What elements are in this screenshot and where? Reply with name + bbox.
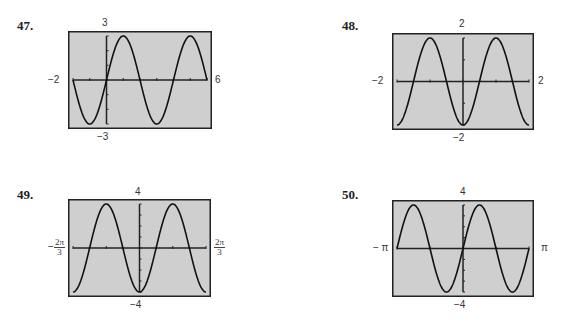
graph-49	[68, 199, 211, 297]
problem-number: 50.	[342, 187, 358, 203]
x-min-sign: −	[48, 241, 54, 252]
problem-number: 49.	[17, 187, 33, 203]
graph-50	[392, 200, 534, 297]
x-min-label: −2	[48, 74, 59, 85]
y-max-label: 4	[460, 186, 466, 197]
x-max-label: π	[541, 242, 548, 253]
y-max-label: 3	[102, 17, 108, 28]
x-max-label: 6	[215, 74, 221, 85]
y-min-label: −3	[97, 131, 108, 142]
y-min-label: −4	[130, 299, 141, 310]
y-min-label: −4	[454, 299, 465, 310]
x-min-label: 2π 3	[54, 238, 65, 257]
y-min-label: −2	[453, 132, 464, 143]
x-max-label: 2π 3	[214, 238, 225, 257]
graph-48	[392, 33, 534, 130]
x-min-label: − π	[373, 242, 389, 253]
y-max-label: 4	[135, 186, 141, 197]
problem-number: 48.	[342, 18, 358, 34]
y-max-label: 2	[459, 18, 465, 29]
x-min-label: −2	[372, 75, 383, 86]
x-max-label: 2	[538, 75, 544, 86]
problem-number: 47.	[17, 18, 33, 34]
graph-47	[68, 31, 212, 129]
